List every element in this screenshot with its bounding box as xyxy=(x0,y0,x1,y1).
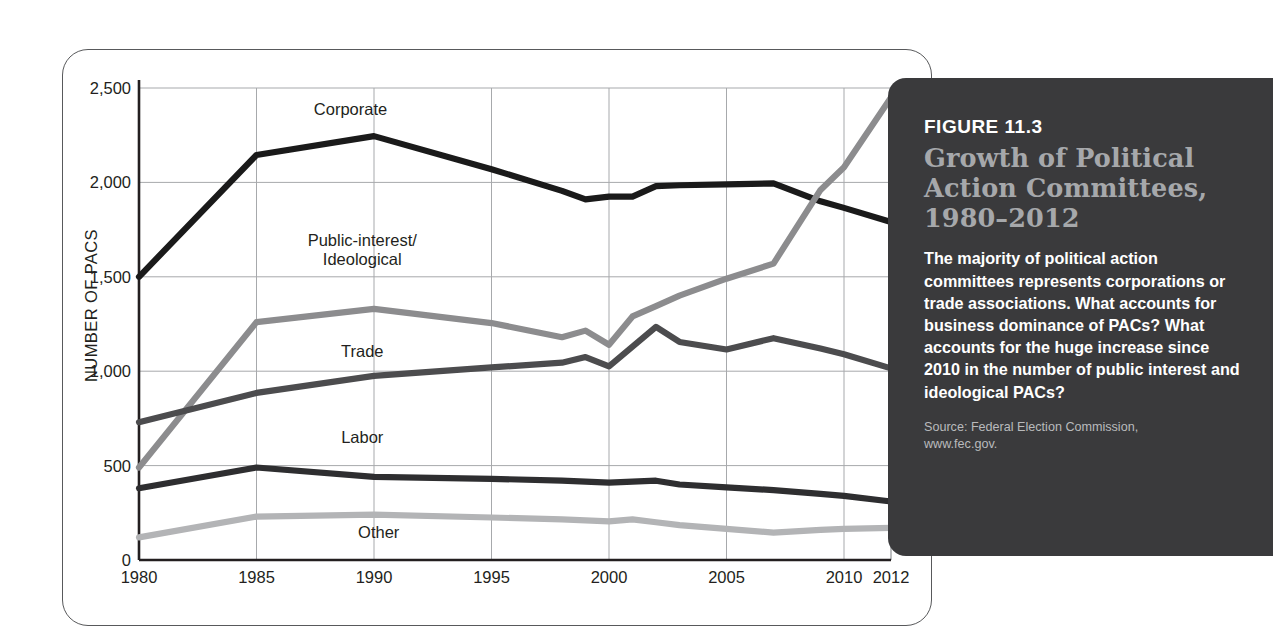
x-tick-label: 2012 xyxy=(873,568,910,587)
y-tick-label: 1,500 xyxy=(65,269,131,286)
x-tick-label: 1985 xyxy=(238,568,275,587)
x-tick-label: 1995 xyxy=(473,568,510,587)
x-tick-label: 2005 xyxy=(708,568,745,587)
series-label-public-interest: Public-interest/ Ideological xyxy=(308,231,417,268)
figure-info-panel: FIGURE 11.3 Growth of Political Action C… xyxy=(888,78,1273,556)
y-tick-label: 1,000 xyxy=(65,363,131,380)
x-tick-label: 2010 xyxy=(826,568,863,587)
series-line-public-interest xyxy=(139,97,891,467)
series-label-labor: Labor xyxy=(341,428,383,446)
series-label-corporate: Corporate xyxy=(314,100,387,118)
chart-card: NUMBER OF PACS 05001,0001,5002,0002,500 … xyxy=(62,49,932,626)
series-line-other xyxy=(139,515,891,538)
figure-caption-body: The majority of political action committ… xyxy=(924,247,1243,402)
y-tick-label: 500 xyxy=(65,457,131,474)
y-tick-label: 2,000 xyxy=(65,174,131,191)
figure-source-line-1: Source: Federal Election Commission, xyxy=(924,420,1138,434)
series-line-trade xyxy=(139,327,891,422)
figure-title: Growth of Political Action Committees, 1… xyxy=(924,144,1243,233)
line-chart-svg xyxy=(63,50,933,627)
y-tick-label: 2,500 xyxy=(65,80,131,97)
plot-wrapper: NUMBER OF PACS 05001,0001,5002,0002,500 … xyxy=(63,50,933,627)
x-tick-label: 1980 xyxy=(121,568,158,587)
series-label-trade: Trade xyxy=(341,342,384,360)
figure-title-line-2: Action Committees, xyxy=(924,173,1207,203)
series-line-labor xyxy=(139,467,891,501)
figure-root: NUMBER OF PACS 05001,0001,5002,0002,500 … xyxy=(0,0,1273,643)
x-axis-tick-labels: 19801985199019952000200520102012 xyxy=(63,562,933,592)
figure-source-line-2: www.fec.gov. xyxy=(924,437,997,451)
figure-title-line-3: 1980–2012 xyxy=(924,203,1080,233)
x-tick-label: 2000 xyxy=(591,568,628,587)
figure-title-line-1: Growth of Political xyxy=(924,143,1194,173)
figure-number: FIGURE 11.3 xyxy=(924,116,1243,138)
y-axis-tick-labels: 05001,0001,5002,0002,500 xyxy=(59,50,131,627)
figure-source: Source: Federal Election Commission, www… xyxy=(924,419,1243,453)
series-label-other: Other xyxy=(358,522,399,540)
x-tick-label: 1990 xyxy=(356,568,393,587)
